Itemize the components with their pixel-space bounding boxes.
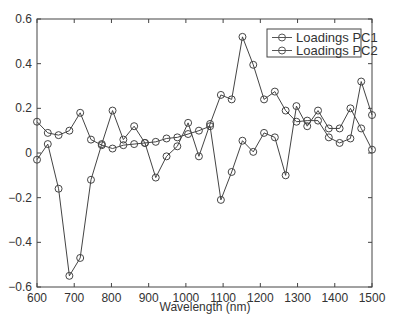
y-tick-label: 0.6 [15, 12, 32, 26]
y-tick-label: −0.4 [8, 235, 32, 249]
legend: Loadings PC1 Loadings PC2 [267, 29, 378, 58]
y-tick-label: 0.2 [15, 101, 32, 115]
chart: 600700800900100011001200130014001500−0.6… [0, 0, 395, 332]
x-tick-label: 900 [139, 291, 159, 305]
y-tick-label: 0.4 [15, 57, 32, 71]
x-tick-label: 1500 [359, 291, 386, 305]
x-tick-label: 1200 [247, 291, 274, 305]
x-tick-label: 800 [101, 291, 121, 305]
y-tick-label: −0.2 [8, 191, 32, 205]
x-tick-label: 700 [64, 291, 84, 305]
plot-frame [37, 19, 372, 287]
x-axis-label: Wavelength (nm) [160, 300, 251, 314]
legend-label-pc2: Loadings PC2 [296, 43, 378, 58]
y-tick-label: −0.6 [8, 280, 32, 294]
plot-series-layer [34, 33, 376, 279]
series-line-1 [37, 37, 372, 276]
x-tick-label: 1300 [284, 291, 311, 305]
x-tick-label: 1400 [321, 291, 348, 305]
y-tick-label: 0 [25, 146, 32, 160]
